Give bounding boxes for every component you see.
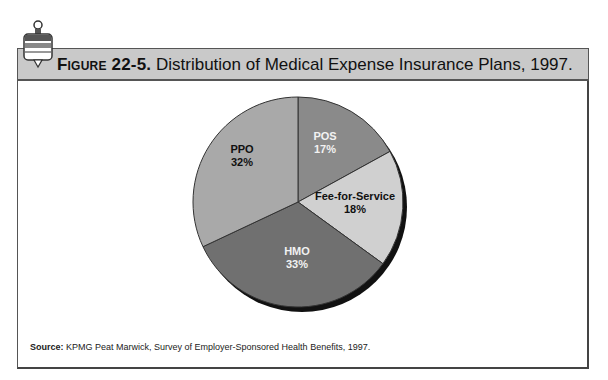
slice-label: PPO <box>230 143 254 155</box>
slice-value: 33% <box>286 258 308 270</box>
slice-label: HMO <box>284 245 310 257</box>
pie-chart: POS17%Fee-for-Service18%HMO33%PPO32% <box>0 0 608 380</box>
slice-value: 17% <box>314 143 336 155</box>
slice-label: Fee-for-Service <box>315 190 395 202</box>
source-text: KPMG Peat Marwick, Survey of Employer-Sp… <box>66 342 370 352</box>
source-note: Source: KPMG Peat Marwick, Survey of Emp… <box>30 342 370 352</box>
slice-label: POS <box>313 130 336 142</box>
slice-value: 18% <box>344 203 366 215</box>
source-label: Source: <box>30 342 64 352</box>
slice-value: 32% <box>231 156 253 168</box>
